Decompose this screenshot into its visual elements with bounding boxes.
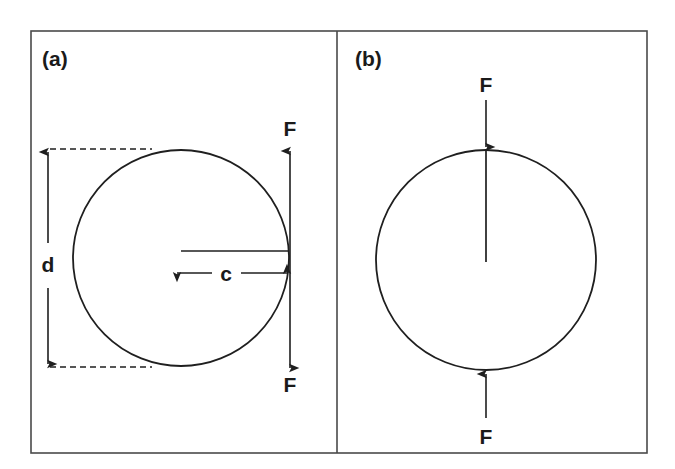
panel-a-dimension-c: c (177, 262, 287, 285)
panel-a-force-bottom: F (284, 253, 297, 396)
diagram-canvas: (a) d c F (0, 0, 675, 469)
panel-b-force-top-label: F (480, 73, 493, 96)
panel-a-dimension-d: d (42, 152, 55, 364)
panel-a-force-top-label: F (284, 117, 297, 140)
panel-a-disc (73, 150, 289, 366)
panel-a: (a) d c F (42, 47, 297, 396)
panel-b-force-bottom-label: F (480, 425, 493, 448)
panel-a-label-c: c (220, 262, 232, 285)
panel-b-force-bottom: F (480, 374, 493, 448)
panel-a-force-bottom-label: F (284, 373, 297, 396)
panel-b-label: (b) (355, 47, 382, 70)
panel-b-force-top: F (480, 73, 493, 147)
panel-a-label-d: d (42, 253, 55, 276)
figure-frame (31, 31, 647, 453)
panel-a-label: (a) (42, 47, 68, 70)
panel-b: (b) F F (355, 47, 596, 448)
figure-container: (a) d c F (0, 0, 675, 469)
